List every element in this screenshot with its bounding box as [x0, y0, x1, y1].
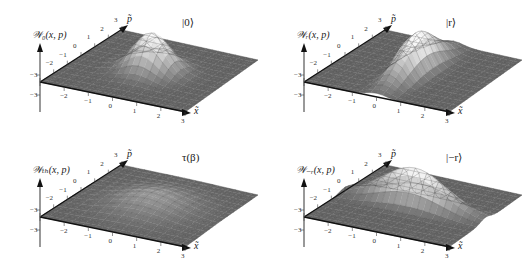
- p-tick-label: 1: [87, 169, 91, 176]
- p-tick-label: −2: [310, 60, 317, 67]
- x-tick-label: −2: [60, 228, 67, 235]
- p-axis-label: p̃: [127, 14, 132, 24]
- p-tick-label: 0: [337, 178, 341, 185]
- x-tick-label: 2: [421, 113, 425, 120]
- corner-tick-label: −3: [30, 207, 37, 214]
- x-tick-label: 3: [445, 118, 449, 125]
- x-axis-label: x̃: [194, 106, 198, 116]
- x-tick-label: −2: [324, 93, 331, 100]
- corner-tick-label: −3: [294, 92, 301, 99]
- x-tick-label: 2: [157, 248, 161, 255]
- wigner-function-label: 𝒲₋ᵣ(x, p): [296, 165, 335, 175]
- p-tick-label: −1: [323, 187, 330, 194]
- p-axis-label: p̃: [391, 149, 396, 159]
- corner-tick-label: −3: [30, 72, 37, 79]
- wigner-function-label: 𝒲ᵣ(x, p): [296, 30, 330, 40]
- p-tick-label: 3: [378, 17, 382, 24]
- corner-tick-label: −3: [294, 227, 301, 234]
- p-tick-label: 3: [114, 152, 118, 159]
- wigner-function-label: 𝒲₀(x, p): [32, 30, 67, 40]
- p-tick-label: −1: [59, 187, 66, 194]
- state-label: |−r⟩: [446, 152, 462, 163]
- x-tick-label: −1: [84, 98, 91, 105]
- x-axis-label: x̃: [458, 241, 462, 251]
- p-tick-label: 0: [73, 43, 77, 50]
- p-tick-label: 2: [100, 26, 104, 33]
- x-tick-label: 2: [421, 248, 425, 255]
- p-tick-label: −1: [59, 52, 66, 59]
- x-tick-label: 1: [397, 243, 401, 250]
- p-tick-label: −2: [46, 195, 53, 202]
- p-tick-label: 2: [364, 161, 368, 168]
- x-tick-label: −1: [348, 98, 355, 105]
- p-tick-label: −1: [323, 52, 330, 59]
- p-tick-label: 0: [337, 43, 341, 50]
- corner-tick-label: −3: [30, 92, 37, 99]
- p-tick-label: 2: [364, 26, 368, 33]
- x-axis-label: x̃: [194, 241, 198, 251]
- state-label: τ(β): [182, 152, 199, 163]
- p-tick-label: 3: [114, 17, 118, 24]
- x-tick-label: −1: [348, 233, 355, 240]
- panel-thermal: −2−10123−2−10123−3−3x̃p̃𝒲ₜₕ(x, p)τ(β): [0, 135, 262, 269]
- corner-tick-label: −3: [30, 227, 37, 234]
- p-tick-label: 1: [351, 34, 355, 41]
- x-tick-label: 1: [133, 243, 137, 250]
- state-label: |r⟩: [446, 17, 456, 28]
- x-tick-label: 2: [157, 113, 161, 120]
- x-tick-label: −2: [324, 228, 331, 235]
- panel-antisqueezed: −2−10123−2−10123−3−3x̃p̃𝒲₋ᵣ(x, p)|−r⟩: [264, 135, 525, 269]
- x-axis-label: x̃: [458, 106, 462, 116]
- x-tick-label: 3: [181, 253, 185, 260]
- p-axis-label: p̃: [127, 149, 132, 159]
- x-tick-label: 1: [133, 108, 137, 115]
- x-tick-label: −1: [84, 233, 91, 240]
- p-tick-label: −2: [46, 60, 53, 67]
- x-tick-label: 3: [445, 253, 449, 260]
- x-tick-label: 0: [373, 238, 377, 245]
- p-tick-label: 1: [351, 169, 355, 176]
- p-tick-label: 3: [378, 152, 382, 159]
- panel-vacuum: −2−10123−2−10123−3−3x̃p̃𝒲₀(x, p)|0⟩: [0, 0, 262, 134]
- p-tick-label: 1: [87, 34, 91, 41]
- x-tick-label: 0: [109, 238, 113, 245]
- wigner-function-label: 𝒲ₜₕ(x, p): [32, 165, 70, 175]
- x-tick-label: 1: [397, 108, 401, 115]
- state-label: |0⟩: [182, 17, 194, 28]
- x-tick-label: 0: [373, 103, 377, 110]
- p-tick-label: 2: [100, 161, 104, 168]
- panel-squeezed: −2−10123−2−10123−3−3x̃p̃𝒲ᵣ(x, p)|r⟩: [264, 0, 525, 134]
- p-tick-label: 0: [73, 178, 77, 185]
- p-axis-label: p̃: [391, 14, 396, 24]
- corner-tick-label: −3: [294, 207, 301, 214]
- x-tick-label: 3: [181, 118, 185, 125]
- x-tick-label: −2: [60, 93, 67, 100]
- corner-tick-label: −3: [294, 72, 301, 79]
- x-tick-label: 0: [109, 103, 113, 110]
- p-tick-label: −2: [310, 195, 317, 202]
